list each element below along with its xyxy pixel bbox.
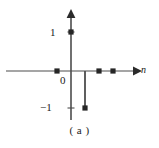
figure-container: n 1 0 −1 ( a ) — [0, 0, 159, 148]
x-axis-label: n — [141, 64, 146, 75]
sample-marker-n3 — [110, 68, 115, 73]
y-tick-label-negative-one: −1 — [40, 101, 52, 113]
figure-caption: ( a ) — [0, 124, 159, 136]
sample-marker-n0 — [68, 29, 73, 34]
y-axis-arrowhead — [67, 9, 76, 18]
y-tick-label-positive-one: 1 — [50, 26, 56, 38]
stem-plot — [0, 0, 159, 128]
sample-marker-n1 — [82, 105, 87, 110]
sample-marker-n2 — [96, 68, 101, 73]
origin-label: 0 — [60, 74, 66, 86]
sample-marker-n-minus1 — [54, 68, 59, 73]
